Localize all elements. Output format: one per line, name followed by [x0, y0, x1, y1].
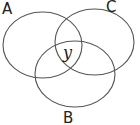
- set-c-label: C: [106, 0, 116, 16]
- set-b-label: B: [63, 109, 73, 125]
- venn-diagram: A C B y: [0, 0, 140, 125]
- set-a-label: A: [2, 0, 13, 18]
- intersection-abc-label: y: [62, 43, 73, 62]
